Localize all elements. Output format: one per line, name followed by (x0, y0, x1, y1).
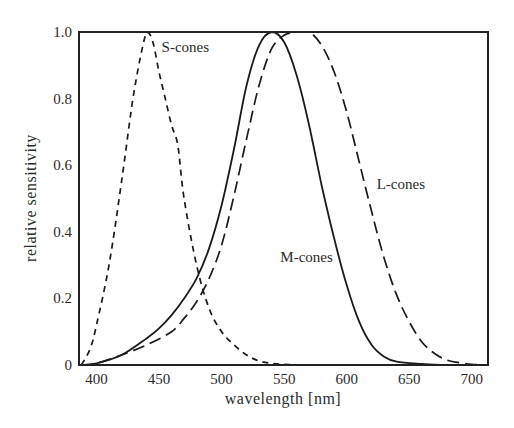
cone-sensitivity-chart: 00.20.40.60.81.0 400450500550600650700 w… (0, 0, 514, 428)
y-tick-label: 0 (65, 357, 73, 373)
series-label-m-cones: M-cones (280, 249, 333, 265)
x-tick-label: 700 (460, 371, 483, 387)
x-tick-label: 450 (148, 371, 171, 387)
x-tick-label: 550 (273, 371, 296, 387)
x-tick-label: 600 (335, 371, 358, 387)
y-tick-label: 0.8 (53, 91, 72, 107)
x-axis-ticks: 400450500550600650700 (85, 371, 483, 387)
y-tick-label: 0.6 (53, 157, 72, 173)
series-label-l-cones: L-cones (377, 176, 425, 192)
x-tick-label: 650 (398, 371, 421, 387)
y-tick-label: 0.2 (53, 290, 72, 306)
x-axis-title: wavelength [nm] (225, 390, 341, 408)
series-label-s-cones: S-cones (162, 39, 210, 55)
series-s-cones-line (82, 32, 297, 365)
plot-frame (79, 32, 488, 365)
y-tick-label: 0.4 (53, 224, 72, 240)
series-labels: S-conesM-conesL-cones (162, 39, 426, 265)
series-layer (82, 32, 485, 365)
series-l-cones-line (82, 32, 485, 365)
y-axis-ticks: 00.20.40.60.81.0 (53, 24, 72, 373)
x-tick-label: 400 (85, 371, 108, 387)
y-axis-title: relative sensitivity (22, 134, 40, 262)
x-tick-label: 500 (210, 371, 233, 387)
y-tick-label: 1.0 (53, 24, 72, 40)
